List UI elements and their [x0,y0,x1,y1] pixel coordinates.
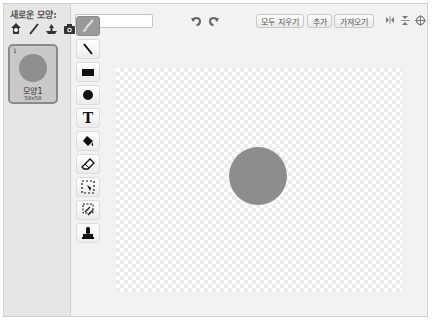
canvas-circle-shape[interactable] [229,147,287,205]
brush-tool[interactable] [76,16,100,36]
costume-index: 1 [13,47,17,54]
add-button[interactable]: 추가 [307,14,332,28]
costume-thumbnail [19,54,47,82]
upload-icon[interactable] [45,22,58,35]
select-icon [81,180,95,194]
paint-editor-frame: 새로운 모양: 1 모양1 58x58 모두 지우기 추 [3,3,428,317]
line-tool[interactable] [76,39,100,59]
import-button[interactable]: 가져오기 [334,14,374,28]
flip-vertical-icon[interactable] [400,15,411,26]
stamp-select-icon [81,203,95,217]
select-tool[interactable] [76,177,100,197]
stamp-tool[interactable] [76,223,100,243]
costume-tile[interactable]: 1 모양1 58x58 [8,44,58,104]
new-costume-icons [9,22,76,35]
rectangle-tool[interactable] [76,62,100,82]
set-center-icon[interactable] [415,15,426,26]
costume-sidebar: 새로운 모양: 1 모양1 58x58 [4,4,71,316]
paint-icon[interactable] [27,22,40,35]
new-costume-label: 새로운 모양: [10,8,57,21]
rectangle-icon [81,67,95,77]
text-tool[interactable]: T [76,108,100,128]
line-icon [81,42,95,56]
fill-icon [81,134,95,148]
eraser-icon [81,157,95,171]
undo-icon[interactable] [190,15,202,27]
brush-icon [81,19,95,33]
stamp-icon [81,226,95,240]
ellipse-icon [82,89,94,101]
select-duplicate-tool[interactable] [76,200,100,220]
clear-button[interactable]: 모두 지우기 [256,14,304,28]
ellipse-tool[interactable] [76,85,100,105]
text-icon: T [83,110,93,126]
redo-icon[interactable] [207,15,219,27]
fill-tool[interactable] [76,131,100,151]
eraser-tool[interactable] [76,154,100,174]
choose-from-library-icon[interactable] [9,22,22,35]
flip-horizontal-icon[interactable] [385,15,395,25]
costume-size: 58x58 [10,95,56,101]
